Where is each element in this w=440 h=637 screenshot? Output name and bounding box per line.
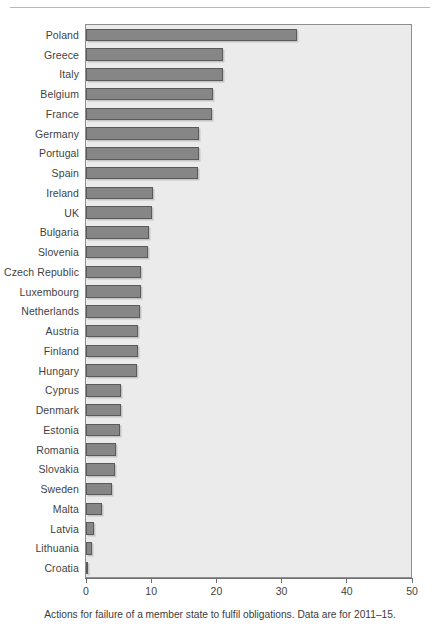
x-tick: [86, 578, 87, 583]
x-tick-label: 10: [131, 585, 171, 598]
category-label: Lithuania: [0, 542, 79, 554]
bar-row: Luxembourg: [0, 282, 440, 302]
bar: [86, 562, 88, 575]
category-label: UK: [0, 207, 79, 219]
bar-row: Portugal: [0, 144, 440, 164]
bar: [86, 542, 92, 555]
x-tick: [346, 578, 347, 583]
bar-row: Malta: [0, 499, 440, 519]
bar-row: Germany: [0, 124, 440, 144]
category-label: Poland: [0, 29, 79, 41]
category-label: Luxembourg: [0, 286, 79, 298]
bar: [86, 187, 153, 200]
bar: [86, 305, 140, 318]
bar-row: UK: [0, 203, 440, 223]
bar: [86, 246, 148, 259]
chart-caption: Actions for failure of a member state to…: [0, 608, 440, 622]
bar-row: Finland: [0, 341, 440, 361]
bar-row: Sweden: [0, 479, 440, 499]
bar-row: Estonia: [0, 420, 440, 440]
x-tick: [412, 578, 413, 583]
category-label: Netherlands: [0, 305, 79, 317]
bar: [86, 48, 223, 61]
bar-row: Italy: [0, 65, 440, 85]
bar-row: Romania: [0, 440, 440, 460]
bar: [86, 285, 141, 298]
bar-chart: PolandGreeceItalyBelgiumFranceGermanyPor…: [0, 24, 440, 584]
category-label: France: [0, 108, 79, 120]
x-tick-label: 30: [262, 585, 302, 598]
category-label: Germany: [0, 128, 79, 140]
bar-row: Poland: [0, 25, 440, 45]
x-tick-label: 20: [196, 585, 236, 598]
bar: [86, 108, 212, 121]
category-label: Belgium: [0, 88, 79, 100]
bar: [86, 443, 116, 456]
category-label: Hungary: [0, 365, 79, 377]
bar-row: Bulgaria: [0, 223, 440, 243]
category-label: Bulgaria: [0, 226, 79, 238]
bar: [86, 68, 223, 81]
category-label: Croatia: [0, 562, 79, 574]
bar-row: Spain: [0, 163, 440, 183]
category-label: Ireland: [0, 187, 79, 199]
bar: [86, 424, 120, 437]
x-tick-label: 40: [327, 585, 367, 598]
category-label: Slovenia: [0, 246, 79, 258]
category-label: Denmark: [0, 404, 79, 416]
bar-row: Greece: [0, 45, 440, 65]
category-label: Czech Republic: [0, 266, 79, 278]
bar: [86, 206, 152, 219]
bar: [86, 522, 94, 535]
bar: [86, 483, 112, 496]
category-label: Italy: [0, 68, 79, 80]
bar-row: Ireland: [0, 183, 440, 203]
bar-row: Czech Republic: [0, 262, 440, 282]
bar-row: Austria: [0, 321, 440, 341]
bar-row: France: [0, 104, 440, 124]
category-label: Finland: [0, 345, 79, 357]
bar-row: Belgium: [0, 84, 440, 104]
category-label: Portugal: [0, 147, 79, 159]
bar: [86, 266, 141, 279]
category-label: Malta: [0, 503, 79, 515]
category-label: Romania: [0, 444, 79, 456]
bar-row: Slovakia: [0, 460, 440, 480]
x-tick-label: 50: [392, 585, 432, 598]
category-label: Slovakia: [0, 463, 79, 475]
figure-container: PolandGreeceItalyBelgiumFranceGermanyPor…: [0, 0, 440, 637]
bar: [86, 226, 149, 239]
bar: [86, 167, 198, 180]
top-divider-rule: [10, 7, 430, 8]
top-rule-label: [120, 0, 340, 7]
bar: [86, 384, 121, 397]
x-tick: [216, 578, 217, 583]
bar-row: Cyprus: [0, 381, 440, 401]
x-axis-line: [85, 578, 413, 579]
bar-row: Croatia: [0, 558, 440, 578]
bar-row: Hungary: [0, 361, 440, 381]
bar: [86, 29, 297, 42]
bar: [86, 463, 115, 476]
bar: [86, 364, 137, 377]
category-label: Spain: [0, 167, 79, 179]
x-tick: [281, 578, 282, 583]
category-label: Cyprus: [0, 384, 79, 396]
category-label: Austria: [0, 325, 79, 337]
x-tick: [151, 578, 152, 583]
bar: [86, 127, 199, 140]
bar-rows: PolandGreeceItalyBelgiumFranceGermanyPor…: [0, 24, 440, 578]
bar-row: Slovenia: [0, 242, 440, 262]
bar-row: Denmark: [0, 400, 440, 420]
bar: [86, 345, 138, 358]
bar: [86, 88, 213, 101]
category-label: Sweden: [0, 483, 79, 495]
bar-row: Latvia: [0, 519, 440, 539]
category-label: Estonia: [0, 424, 79, 436]
bar: [86, 404, 121, 417]
bar: [86, 147, 199, 160]
x-tick-label: 0: [66, 585, 106, 598]
bar-row: Lithuania: [0, 539, 440, 559]
category-label: Greece: [0, 49, 79, 61]
category-label: Latvia: [0, 523, 79, 535]
